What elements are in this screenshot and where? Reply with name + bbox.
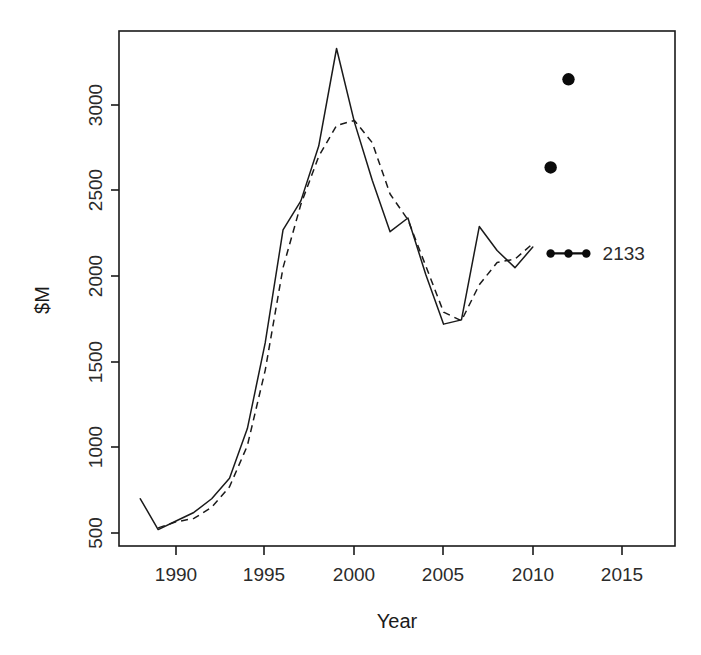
xtick-label-2005: 2005 [422, 564, 464, 585]
forecast-point-marker [582, 249, 590, 257]
plot-box [119, 31, 675, 546]
forecast-point-marker [564, 249, 572, 257]
xtick-label-2015: 2015 [601, 564, 643, 585]
forecast-point-marker [546, 249, 554, 257]
scenario-point-marker [562, 73, 574, 85]
x-axis-title: Year [377, 610, 418, 632]
scenario-point-marker [544, 161, 556, 173]
xtick-label-2010: 2010 [512, 564, 554, 585]
ytick-label-1000: 1000 [85, 426, 106, 468]
xtick-label-1990: 1990 [155, 564, 197, 585]
x-axis-ticks [176, 546, 622, 555]
forecast-value-label: 2133 [603, 243, 645, 264]
ytick-label-2500: 2500 [85, 169, 106, 211]
ytick-label-500: 500 [85, 517, 106, 549]
y-axis-ticks [111, 105, 119, 533]
y-axis-title: $M [31, 286, 53, 314]
y-axis-tick-labels: 3000 2500 2000 1500 1000 500 [85, 84, 106, 549]
ytick-label-3000: 3000 [85, 84, 106, 126]
chart-figure: 3000 2500 2000 1500 1000 500 $M 1990 199… [0, 0, 701, 655]
ytick-label-2000: 2000 [85, 255, 106, 297]
xtick-label-1995: 1995 [243, 564, 285, 585]
ytick-label-1500: 1500 [85, 341, 106, 383]
line-chart: 3000 2500 2000 1500 1000 500 $M 1990 199… [0, 0, 701, 655]
xtick-label-2000: 2000 [333, 564, 375, 585]
x-axis-tick-labels: 1990 1995 2000 2005 2010 2015 [155, 564, 643, 585]
